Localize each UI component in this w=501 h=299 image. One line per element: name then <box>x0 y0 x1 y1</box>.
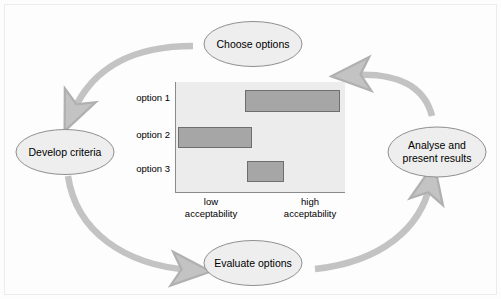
node-choose-options[interactable]: Choose options <box>204 22 302 67</box>
node-choose-options-label: Choose options <box>217 38 290 50</box>
node-evaluate-options-label: Evaluate options <box>214 257 292 269</box>
node-analyse-present-results-label-line1: Analyse and <box>408 139 466 151</box>
chart-axis-label-high-line2: acceptability <box>272 208 348 220</box>
node-analyse-present-results[interactable]: Analyse and present results <box>388 127 486 177</box>
chart-axis-label-low: low acceptability <box>173 196 249 219</box>
node-evaluate-options[interactable]: Evaluate options <box>204 241 302 286</box>
node-develop-criteria-label: Develop criteria <box>29 146 102 158</box>
bar-option-1 <box>245 90 340 112</box>
diagram-figure: Choose options Develop criteria Evaluate… <box>0 0 501 299</box>
bar-option-2 <box>178 127 252 148</box>
node-analyse-present-results-label-line2: present results <box>403 152 472 164</box>
chart-category-label-option-2: option 2 <box>95 129 170 140</box>
arrow-develop-to-evaluate <box>68 176 190 270</box>
chart-axis-label-high-line1: high <box>272 196 348 208</box>
chart-category-label-option-3: option 3 <box>95 163 170 174</box>
chart-axis-label-high: high acceptability <box>272 196 348 219</box>
chart-axis-label-low-line1: low <box>173 196 249 208</box>
acceptability-bar-chart <box>175 82 345 193</box>
arrow-analyse-to-choose <box>352 75 432 116</box>
chart-category-label-option-1: option 1 <box>95 92 170 103</box>
bar-option-3 <box>247 161 284 182</box>
chart-axis-label-low-line2: acceptability <box>173 208 249 220</box>
